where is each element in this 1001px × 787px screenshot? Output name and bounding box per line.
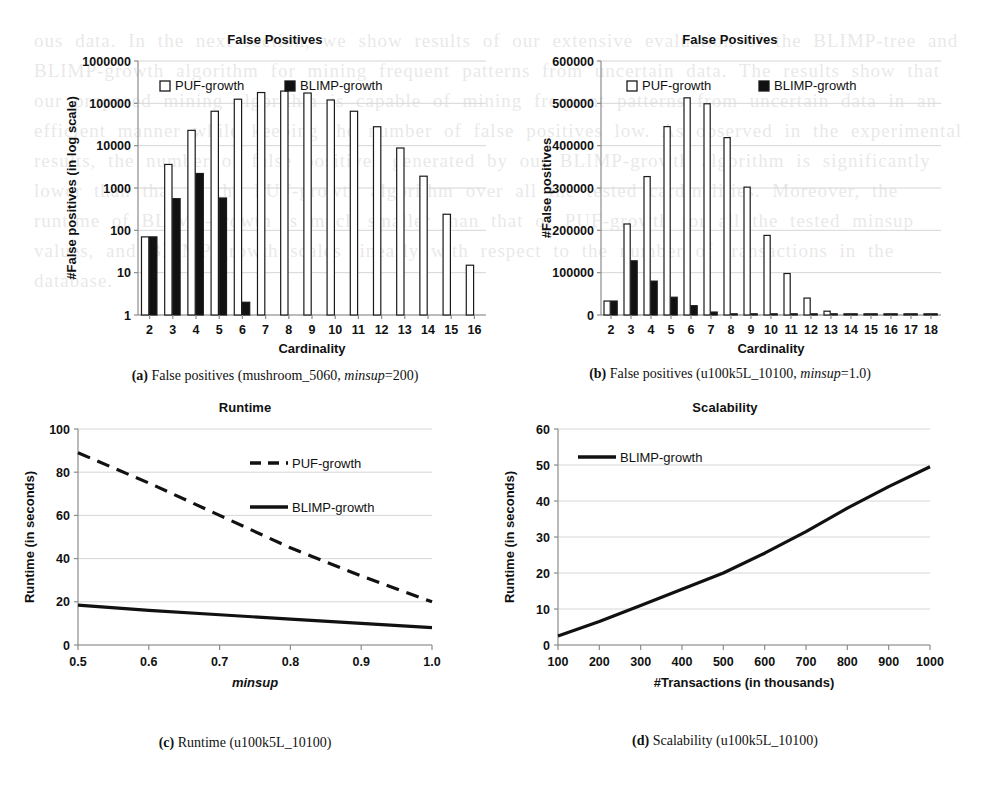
panel-a-caption: (a) False positives (mushroom_5060, mins… <box>60 368 490 384</box>
svg-text:16: 16 <box>467 323 481 337</box>
svg-text:11: 11 <box>784 323 797 337</box>
svg-text:400: 400 <box>672 655 693 669</box>
panel-d-scalability: Scalability 0102030405060100200300400500… <box>500 400 950 730</box>
svg-text:20: 20 <box>536 567 550 581</box>
svg-text:100000: 100000 <box>89 97 131 111</box>
svg-text:10: 10 <box>764 323 778 337</box>
svg-text:15: 15 <box>864 323 878 337</box>
svg-text:700: 700 <box>796 655 817 669</box>
svg-text:#False positives: #False positives <box>539 138 554 238</box>
svg-text:100: 100 <box>49 423 70 437</box>
svg-text:50: 50 <box>536 459 550 473</box>
svg-text:1000000: 1000000 <box>82 55 131 69</box>
svg-text:4: 4 <box>648 323 655 337</box>
panel-b-caption: (b) False positives (u100k5L_10100, mins… <box>515 366 945 382</box>
svg-text:9: 9 <box>748 323 755 337</box>
svg-text:80: 80 <box>56 466 70 480</box>
svg-text:7: 7 <box>708 323 715 337</box>
svg-text:0.8: 0.8 <box>282 655 299 669</box>
svg-text:3: 3 <box>169 323 176 337</box>
panel-a-false-positives-mushroom: False Positives 110100100010000100000100… <box>60 32 490 387</box>
panel-b-svg: 0100000200000300000400000500000600000234… <box>515 47 945 377</box>
svg-text:11: 11 <box>352 323 365 337</box>
panel-d-caption-text: Scalability (u100k5L_10100) <box>653 733 818 748</box>
svg-text:300: 300 <box>630 655 651 669</box>
svg-text:600000: 600000 <box>552 55 594 69</box>
svg-text:Runtime (in seconds): Runtime (in seconds) <box>502 471 517 603</box>
svg-text:10: 10 <box>328 323 342 337</box>
svg-text:12: 12 <box>375 323 389 337</box>
panel-c-svg: 0204060801000.50.60.70.80.91.0minsupRunt… <box>20 415 470 720</box>
svg-text:1000: 1000 <box>103 182 131 196</box>
panel-a-caption-text: False positives (mushroom_5060, <box>151 368 344 383</box>
panel-a-caption-tail: =200) <box>385 368 419 383</box>
svg-text:0.6: 0.6 <box>140 655 157 669</box>
svg-text:BLIMP-growth: BLIMP-growth <box>300 78 382 93</box>
svg-text:0: 0 <box>587 309 594 323</box>
panel-b-caption-italic: minsup <box>800 366 840 381</box>
panel-c-caption-label: (c) <box>159 735 175 750</box>
svg-text:16: 16 <box>884 323 898 337</box>
svg-text:900: 900 <box>878 655 899 669</box>
svg-text:PUF-growth: PUF-growth <box>642 78 711 93</box>
svg-text:14: 14 <box>844 323 858 337</box>
panel-d-plot: 0102030405060100200300400500600700800900… <box>500 415 950 720</box>
svg-text:600: 600 <box>754 655 775 669</box>
panel-d-caption: (d) Scalability (u100k5L_10100) <box>500 733 950 749</box>
svg-text:1.0: 1.0 <box>423 655 440 669</box>
panel-d-caption-label: (d) <box>632 733 649 748</box>
panel-b-caption-text: False positives (u100k5L_10100, <box>610 366 801 381</box>
svg-text:18: 18 <box>924 323 938 337</box>
panel-c-runtime: Runtime 0204060801000.50.60.70.80.91.0mi… <box>20 400 470 730</box>
panel-a-title: False Positives <box>60 32 490 47</box>
svg-text:Cardinality: Cardinality <box>278 341 346 356</box>
svg-text:15: 15 <box>444 323 458 337</box>
svg-text:8: 8 <box>285 323 292 337</box>
svg-text:40: 40 <box>536 495 550 509</box>
panel-d-title: Scalability <box>500 400 950 415</box>
svg-text:6: 6 <box>688 323 695 337</box>
svg-text:1000: 1000 <box>916 655 944 669</box>
svg-text:0: 0 <box>63 639 70 653</box>
panel-c-caption: (c) Runtime (u100k5L_10100) <box>20 735 470 751</box>
svg-text:100: 100 <box>548 655 569 669</box>
figure-container: False Positives 110100100010000100000100… <box>0 0 1001 787</box>
panel-d-svg: 0102030405060100200300400500600700800900… <box>500 415 950 720</box>
svg-text:200: 200 <box>589 655 610 669</box>
svg-text:2: 2 <box>608 323 615 337</box>
svg-text:0.7: 0.7 <box>211 655 228 669</box>
svg-text:13: 13 <box>824 323 838 337</box>
svg-text:500: 500 <box>713 655 734 669</box>
panel-b-false-positives-u100k5l: False Positives 010000020000030000040000… <box>515 32 945 387</box>
panel-c-caption-text: Runtime (u100k5L_10100) <box>178 735 332 750</box>
svg-text:100: 100 <box>110 224 131 238</box>
svg-text:10: 10 <box>117 266 131 280</box>
panel-b-caption-tail: =1.0) <box>841 366 871 381</box>
svg-text:Runtime (in seconds): Runtime (in seconds) <box>22 471 37 603</box>
panel-a-caption-italic: minsup <box>344 368 384 383</box>
svg-text:100000: 100000 <box>552 266 594 280</box>
svg-text:BLIMP-growth: BLIMP-growth <box>292 500 374 515</box>
panel-b-caption-label: (b) <box>589 366 606 381</box>
svg-text:800: 800 <box>837 655 858 669</box>
svg-text:1: 1 <box>124 309 131 323</box>
svg-text:60: 60 <box>536 423 550 437</box>
panel-c-title: Runtime <box>20 400 470 415</box>
svg-text:6: 6 <box>239 323 246 337</box>
panel-a-caption-label: (a) <box>132 368 148 383</box>
svg-text:BLIMP-growth: BLIMP-growth <box>620 450 702 465</box>
svg-text:PUF-growth: PUF-growth <box>175 78 244 93</box>
svg-text:14: 14 <box>421 323 435 337</box>
svg-text:8: 8 <box>728 323 735 337</box>
svg-text:5: 5 <box>668 323 675 337</box>
svg-text:300000: 300000 <box>552 182 594 196</box>
svg-text:400000: 400000 <box>552 139 594 153</box>
svg-text:20: 20 <box>56 595 70 609</box>
panel-b-plot: 0100000200000300000400000500000600000234… <box>515 47 945 377</box>
svg-text:200000: 200000 <box>552 224 594 238</box>
svg-text:0: 0 <box>543 639 550 653</box>
svg-text:4: 4 <box>193 323 200 337</box>
svg-text:30: 30 <box>536 531 550 545</box>
svg-text:0.9: 0.9 <box>353 655 370 669</box>
svg-text:500000: 500000 <box>552 97 594 111</box>
